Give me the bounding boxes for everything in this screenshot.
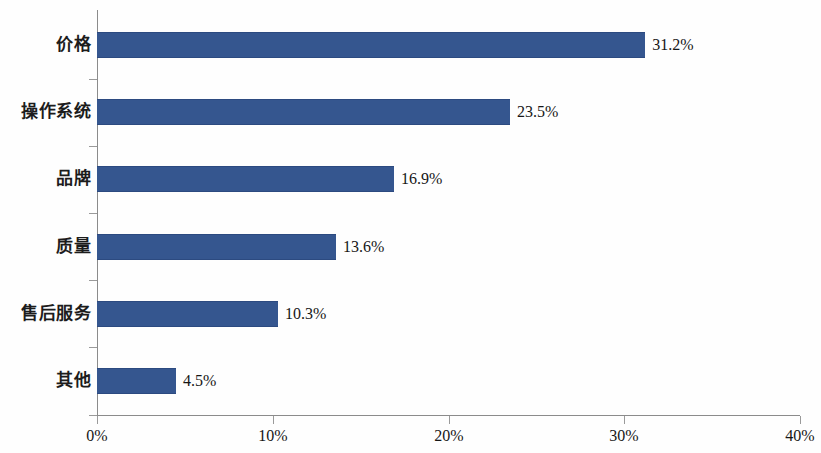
category-label: 价格: [5, 36, 91, 53]
bar-chart: 价格操作系统品牌质量售后服务其他 31.2%23.5%16.9%13.6%10.…: [0, 0, 821, 453]
x-axis-tick: [273, 416, 274, 424]
bar: [97, 368, 176, 394]
x-axis-tick-label: 30%: [589, 428, 659, 444]
value-label: 4.5%: [183, 373, 216, 389]
y-axis-tick: [89, 415, 97, 416]
category-label: 质量: [5, 238, 91, 255]
bar: [97, 301, 278, 327]
x-axis-tick-label: 20%: [414, 428, 484, 444]
category-label: 操作系统: [5, 103, 91, 120]
x-axis-tick: [800, 416, 801, 424]
x-axis-tick: [449, 416, 450, 424]
y-axis-tick: [89, 213, 97, 214]
value-label: 23.5%: [517, 104, 558, 120]
value-label: 13.6%: [343, 239, 384, 255]
value-label: 10.3%: [285, 306, 326, 322]
bar: [97, 234, 336, 260]
category-label-wrap: 售后服务: [0, 305, 91, 325]
category-label: 品牌: [5, 170, 91, 187]
category-label-wrap: 品牌: [0, 170, 91, 190]
value-label: 31.2%: [652, 37, 693, 53]
category-label-wrap: 操作系统: [0, 103, 91, 123]
bar: [97, 32, 645, 58]
category-label-wrap: 价格: [0, 36, 91, 56]
y-axis-line: [97, 10, 98, 416]
category-label-wrap: 其他: [0, 372, 91, 392]
bar: [97, 99, 510, 125]
x-axis-tick: [624, 416, 625, 424]
plot-area: 价格操作系统品牌质量售后服务其他 31.2%23.5%16.9%13.6%10.…: [0, 0, 821, 453]
y-axis-tick: [89, 79, 97, 80]
x-axis-tick-label: 10%: [238, 428, 308, 444]
x-axis-tick: [97, 416, 98, 424]
bar: [97, 166, 394, 192]
y-axis-tick: [89, 347, 97, 348]
y-axis-tick: [89, 280, 97, 281]
y-axis-tick: [89, 146, 97, 147]
x-axis-tick-label: 40%: [765, 428, 821, 444]
category-label: 售后服务: [5, 305, 91, 322]
x-axis-tick-label: 0%: [62, 428, 132, 444]
category-label-wrap: 质量: [0, 238, 91, 258]
category-label: 其他: [5, 372, 91, 389]
value-label: 16.9%: [401, 171, 442, 187]
